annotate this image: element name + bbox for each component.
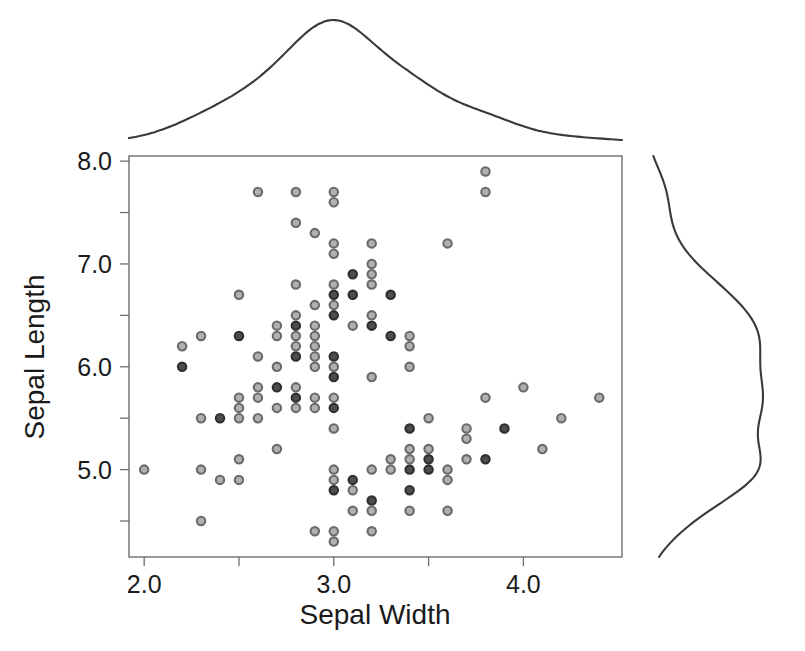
scatter-point — [481, 393, 489, 401]
scatter-point — [481, 188, 489, 196]
scatter-point — [273, 445, 281, 453]
scatter-point — [368, 239, 376, 247]
x-axis-title: Sepal Width — [300, 599, 451, 630]
scatter-point — [519, 383, 527, 391]
scatter-point — [386, 291, 394, 299]
joint-plot-figure: 2.03.04.0 5.06.07.08.0 Sepal Width Sepal… — [0, 0, 805, 651]
x-tick-label-2.0: 2.0 — [127, 570, 162, 598]
scatter-point — [311, 393, 319, 401]
scatter-point — [330, 527, 338, 535]
scatter-point — [330, 301, 338, 309]
scatter-point — [311, 332, 319, 340]
y-axis-title: Sepal Length — [19, 274, 50, 439]
scatter-point — [254, 393, 262, 401]
scatter-point — [254, 414, 262, 422]
scatter-point — [197, 332, 205, 340]
scatter-point — [349, 507, 357, 515]
scatter-point — [330, 465, 338, 473]
scatter-point — [538, 445, 546, 453]
scatter-point — [368, 373, 376, 381]
scatter-point — [424, 455, 432, 463]
scatter-point — [273, 363, 281, 371]
scatter-point — [292, 280, 300, 288]
scatter-point — [500, 424, 508, 432]
scatter-point — [368, 496, 376, 504]
scatter-point — [462, 455, 470, 463]
scatter-point — [216, 414, 224, 422]
scatter-point — [311, 321, 319, 329]
scatter-point — [368, 270, 376, 278]
scatter-point — [216, 476, 224, 484]
scatter-point — [273, 383, 281, 391]
scatter-point — [330, 239, 338, 247]
scatter-point — [443, 465, 451, 473]
scatter-point — [292, 404, 300, 412]
scatter-point — [330, 291, 338, 299]
scatter-point — [330, 249, 338, 257]
scatter-point — [292, 311, 300, 319]
y-tick-label-5.0: 5.0 — [77, 456, 112, 484]
scatter-point — [330, 311, 338, 319]
scatter-point — [140, 465, 148, 473]
scatter-point — [330, 280, 338, 288]
scatter-point — [349, 486, 357, 494]
scatter-point — [557, 414, 565, 422]
scatter-point — [197, 517, 205, 525]
scatter-point — [424, 414, 432, 422]
scatter-point — [443, 239, 451, 247]
scatter-point — [368, 507, 376, 515]
scatter-point — [273, 321, 281, 329]
scatter-point — [405, 424, 413, 432]
scatter-point — [405, 486, 413, 494]
figure-background — [0, 0, 805, 651]
scatter-point — [292, 219, 300, 227]
chart-canvas: 2.03.04.0 5.06.07.08.0 Sepal Width Sepal… — [0, 0, 805, 651]
scatter-point — [330, 363, 338, 371]
scatter-point — [311, 342, 319, 350]
scatter-point — [349, 476, 357, 484]
scatter-point — [368, 260, 376, 268]
scatter-point — [292, 332, 300, 340]
scatter-point — [405, 342, 413, 350]
scatter-point — [405, 445, 413, 453]
scatter-point — [292, 321, 300, 329]
scatter-point — [330, 537, 338, 545]
scatter-point — [178, 342, 186, 350]
scatter-point — [311, 363, 319, 371]
scatter-point — [273, 404, 281, 412]
scatter-point — [330, 373, 338, 381]
scatter-point — [292, 393, 300, 401]
scatter-point — [235, 393, 243, 401]
y-tick-label-7.0: 7.0 — [77, 250, 112, 278]
scatter-point — [462, 435, 470, 443]
scatter-point — [273, 332, 281, 340]
scatter-point — [330, 393, 338, 401]
scatter-point — [443, 507, 451, 515]
scatter-point — [235, 291, 243, 299]
scatter-point — [292, 188, 300, 196]
scatter-point — [235, 476, 243, 484]
scatter-point — [424, 465, 432, 473]
scatter-point — [330, 476, 338, 484]
scatter-point — [330, 352, 338, 360]
scatter-point — [311, 527, 319, 535]
scatter-point — [235, 414, 243, 422]
scatter-point — [368, 321, 376, 329]
scatter-point — [386, 332, 394, 340]
scatter-point — [330, 404, 338, 412]
scatter-point — [254, 383, 262, 391]
scatter-point — [481, 167, 489, 175]
scatter-point — [349, 291, 357, 299]
scatter-point — [368, 311, 376, 319]
scatter-point — [254, 352, 262, 360]
scatter-point — [235, 455, 243, 463]
scatter-point — [368, 280, 376, 288]
scatter-point — [424, 445, 432, 453]
scatter-point — [178, 363, 186, 371]
scatter-point — [405, 507, 413, 515]
scatter-point — [197, 414, 205, 422]
scatter-point — [462, 424, 470, 432]
scatter-point — [292, 352, 300, 360]
scatter-point — [405, 332, 413, 340]
scatter-point — [405, 455, 413, 463]
